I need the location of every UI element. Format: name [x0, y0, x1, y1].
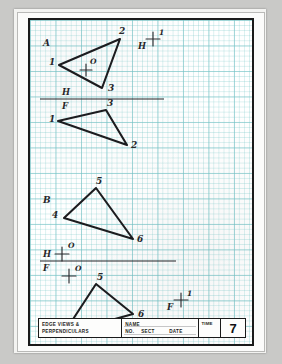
vertex-label-a-f-1: 1	[49, 115, 55, 124]
title-block-time-cell[interactable]: TIME	[199, 319, 221, 337]
vertex-label-a-h-3: 3	[108, 84, 114, 93]
title-block: EDGE VIEWS & PERPENDICULARS NAME NO. SEC…	[38, 318, 246, 338]
point-label-o-b-h: O	[68, 242, 75, 250]
subfield-rule-line	[124, 334, 196, 335]
section-label-a: A	[43, 39, 50, 48]
fold-label-b-h: H	[43, 250, 51, 259]
point-o-cross-b-h	[55, 247, 69, 261]
fold-label-a-h: H	[62, 88, 70, 97]
aux-plane-cross-h-prime	[146, 32, 160, 46]
title-block-page-number-cell: 7	[221, 319, 245, 337]
vertex-label-b-f-5: 5	[97, 273, 103, 282]
vertex-label-a-f-2: 2	[131, 141, 137, 150]
vertex-label-b-h-5: 5	[96, 177, 102, 186]
section-label-b: B	[43, 196, 51, 205]
prime-label-f: 1	[187, 290, 192, 298]
vertex-label-a-h-1: 1	[49, 58, 55, 67]
title-block-name-cell[interactable]: NAME NO. SECT DATE	[122, 319, 199, 337]
name-rule-line	[124, 326, 196, 327]
title-block-time-label: TIME	[201, 321, 220, 326]
point-o-cross-b-f	[62, 269, 76, 283]
point-label-o-b-f: O	[75, 265, 82, 273]
fold-label-a-f: F	[62, 102, 68, 111]
drawing-canvas	[30, 20, 254, 346]
vertex-label-a-h-2: 2	[119, 27, 125, 36]
problem-a-frontal-triangle	[58, 110, 127, 145]
title-block-description-line2: PERPENDICULARS	[42, 328, 121, 335]
vertex-label-a-f-3: 3	[107, 99, 113, 108]
plane-label-h-prime: H	[138, 42, 146, 51]
fold-label-b-f: F	[43, 264, 49, 273]
problem-b-horizontal-triangle	[64, 188, 133, 239]
aux-plane-cross-f-prime	[174, 293, 188, 307]
vertex-label-b-h-4: 4	[52, 211, 58, 220]
point-label-o-a-h: O	[90, 58, 97, 66]
prime-label-h: 1	[159, 29, 164, 37]
drawing-frame: A 1 2 3 O H 1 H F 1 3 2 B 5 4 6 H O F O …	[28, 18, 254, 346]
sheet-number: 7	[230, 321, 237, 336]
vertex-label-b-h-6: 6	[137, 235, 143, 244]
triangle-a-f-outline	[58, 110, 127, 145]
scanner-background: A 1 2 3 O H 1 H F 1 3 2 B 5 4 6 H O F O …	[0, 0, 282, 364]
triangle-b-h-outline	[64, 188, 133, 239]
title-block-description-cell: EDGE VIEWS & PERPENDICULARS	[39, 319, 122, 337]
title-block-name-label: NAME	[125, 321, 198, 328]
plane-label-f-prime: F	[167, 303, 173, 312]
title-block-description-line1: EDGE VIEWS &	[42, 321, 121, 328]
